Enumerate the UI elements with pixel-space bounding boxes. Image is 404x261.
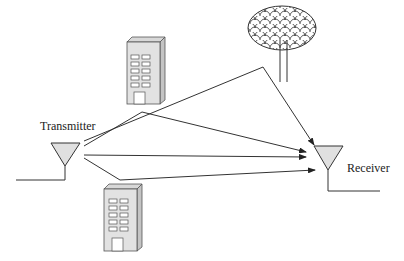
transmitter-antenna-icon: [16, 143, 80, 180]
tree-icon: [248, 6, 316, 82]
path-building-bottom-reflection: [84, 158, 315, 180]
building-bottom-icon: [104, 184, 142, 251]
building-top-icon: [127, 37, 165, 104]
transmitter-label: Transmitter: [40, 119, 96, 134]
receiver-label: Receiver: [347, 161, 390, 176]
path-direct: [84, 155, 306, 157]
path-building-top-reflection: [84, 112, 306, 152]
